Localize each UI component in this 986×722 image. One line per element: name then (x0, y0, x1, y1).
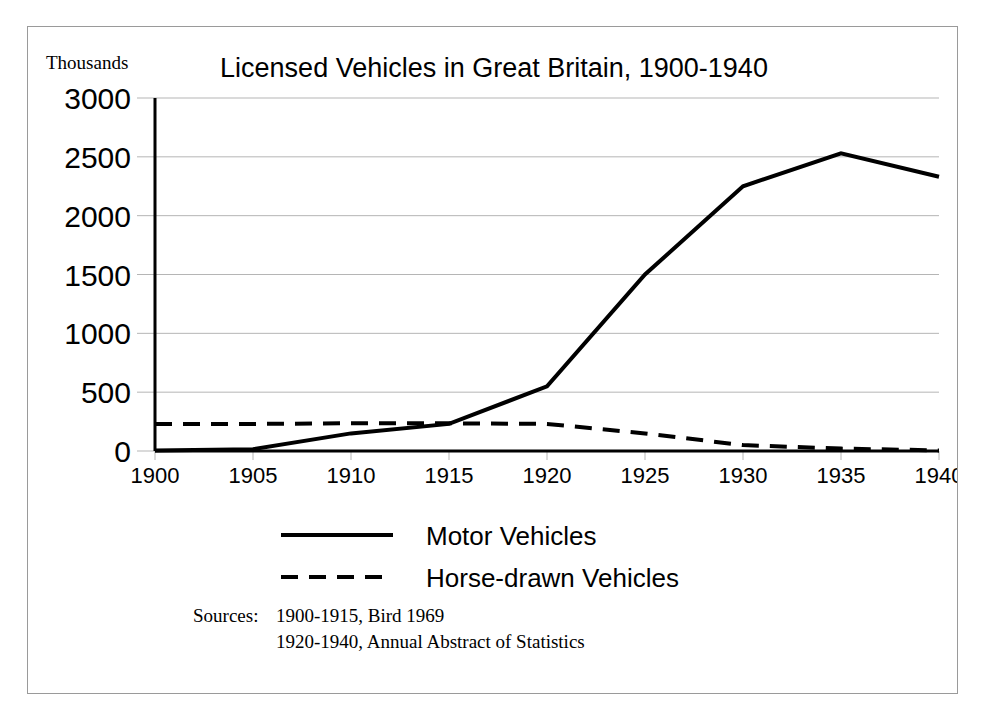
y-axis-tick-label: 2500 (64, 141, 131, 174)
sources-label: Sources: (193, 605, 258, 626)
x-axis-tick-label: 1905 (229, 463, 278, 488)
legend-label: Horse-drawn Vehicles (426, 563, 679, 593)
x-axis-tick-label: 1925 (621, 463, 670, 488)
x-axis-tick-label: 1935 (817, 463, 866, 488)
y-axis-tick-label: 3000 (64, 82, 131, 115)
sources-line-2: 1920-1940, Annual Abstract of Statistics (276, 631, 585, 652)
series-line-motor-vehicles (155, 153, 939, 450)
x-axis-tick-label: 1900 (131, 463, 180, 488)
x-axis-tick-labels: 190019051910191519201925193019351940 (131, 463, 957, 488)
y-axis-unit-label: Thousands (46, 52, 128, 73)
y-axis-tick-label: 1000 (64, 317, 131, 350)
y-axis-tick-label: 2000 (64, 200, 131, 233)
x-axis-tick-label: 1940 (915, 463, 957, 488)
y-axis-tick-label: 0 (114, 435, 131, 468)
x-axis-tick-label: 1930 (719, 463, 768, 488)
line-chart: Thousands Licensed Vehicles in Great Bri… (28, 27, 957, 693)
legend-label: Motor Vehicles (426, 521, 597, 551)
chart-figure: Thousands Licensed Vehicles in Great Bri… (27, 26, 958, 694)
gridlines (155, 98, 939, 451)
y-axis-tick-label: 500 (81, 376, 131, 409)
y-axis-tick-labels: 050010001500200025003000 (64, 82, 155, 468)
chart-title: Licensed Vehicles in Great Britain, 1900… (220, 53, 768, 83)
y-axis-tick-label: 1500 (64, 259, 131, 292)
x-axis-tick-label: 1915 (425, 463, 474, 488)
sources-line-1: 1900-1915, Bird 1969 (276, 605, 444, 626)
x-axis-tick-label: 1920 (523, 463, 572, 488)
chart-legend: Motor VehiclesHorse-drawn Vehicles (281, 521, 679, 593)
x-axis-tick-label: 1910 (327, 463, 376, 488)
